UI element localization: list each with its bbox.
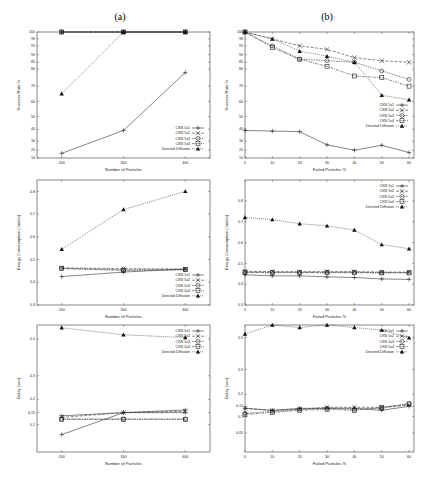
legend-label: CKN 5x1 (176, 126, 190, 130)
series-4 (60, 326, 188, 340)
y-axis-label: Energy Consumption (Joules) (16, 214, 21, 270)
y-tick-label: 95 (239, 44, 243, 48)
legend: CKN 5x1CKN 5x2CKN 5x3CKN 5x4Directed Dif… (366, 184, 408, 209)
x-tick-label: 60 (407, 161, 411, 165)
legend-label: CKN 5x4 (380, 345, 394, 349)
x-axis-label: Failed Particles % (313, 167, 347, 172)
chart-success-rate-vs-particles: 200300400102030405060708085909598100Numb… (16, 30, 210, 172)
y-tick-label: 0.1 (238, 415, 243, 419)
x-axis-label: Number of Particles (105, 167, 142, 172)
y-tick-label: 50 (239, 115, 243, 119)
legend-label: CKN 5x3 (176, 137, 190, 141)
x-tick-label: 50 (380, 455, 384, 459)
series-4 (60, 189, 188, 251)
x-tick-label: 200 (59, 455, 65, 459)
column-title-b: (b) (321, 11, 333, 23)
x-tick-label: 50 (380, 308, 384, 312)
legend: CKN 5x1CKN 5x2CKN 5x3CKN 5x4Directed Dif… (162, 273, 204, 298)
series-4 (243, 215, 411, 250)
x-tick-label: 0 (244, 161, 246, 165)
y-tick-label: 100 (29, 30, 35, 34)
y-tick-label: 0.6 (238, 241, 243, 245)
y-tick-label: 90 (239, 53, 243, 57)
y-tick-label: 0.8 (30, 190, 35, 194)
x-tick-label: 200 (59, 308, 65, 312)
y-tick-label: 20 (239, 148, 243, 152)
y-tick-label: 85 (239, 60, 243, 64)
y-tick-label: 70 (31, 84, 35, 88)
y-tick-label: 0.7 (238, 220, 243, 224)
y-tick-label: 98 (239, 37, 243, 41)
y-tick-label: 10 (239, 156, 243, 160)
chart-delay-vs-failed: 01020304050600.050.10.150.20.30.5Failed … (224, 323, 414, 466)
legend-label: CKN 5x3 (380, 340, 394, 344)
y-axis-label: Delay (sec) (16, 377, 21, 399)
y-tick-label: 0.3 (30, 303, 35, 307)
y-tick-label: 20 (31, 148, 35, 152)
y-tick-label: 0.15 (28, 411, 35, 415)
legend-label: CKN 5x2 (380, 189, 394, 193)
chart-energy-vs-failed: 01020304050600.30.40.50.60.70.8Failed Pa… (224, 180, 414, 319)
y-tick-label: 70 (239, 84, 243, 88)
legend-label: CKN 5x3 (176, 340, 190, 344)
y-tick-label: 80 (239, 67, 243, 71)
y-tick-label: 0.3 (238, 303, 243, 307)
y-tick-label: 0.7 (30, 212, 35, 216)
legend: CKN 5x1CKN 5x2CKN 5x3CKN 5x4Directed Dif… (162, 329, 204, 354)
y-tick-label: 0.3 (30, 374, 35, 378)
x-tick-label: 60 (407, 308, 411, 312)
legend-label: CKN 5x2 (176, 334, 190, 338)
y-tick-label: 0.5 (30, 258, 35, 262)
x-tick-label: 40 (352, 308, 356, 312)
y-tick-label: 0.1 (30, 423, 35, 427)
x-tick-label: 0 (244, 455, 246, 459)
series-0 (243, 273, 411, 282)
legend-label: Directed Diffusion (366, 350, 394, 354)
figure: (a) (b) 20030040010203040506070808590959… (0, 0, 431, 481)
y-tick-label: 0.8 (238, 199, 243, 203)
y-tick-label: 0.15 (236, 404, 243, 408)
x-tick-label: 400 (182, 161, 188, 165)
y-tick-label: 0.5 (30, 337, 35, 341)
legend-label: CKN 5x1 (176, 329, 190, 333)
y-tick-label: 0.4 (30, 280, 35, 284)
legend: CKN 5x1CKN 5x2CKN 5x3CKN 5x4Directed Dif… (366, 329, 408, 354)
legend-label: CKN 5x1 (380, 329, 394, 333)
y-tick-label: 50 (31, 115, 35, 119)
x-tick-label: 40 (352, 455, 356, 459)
y-axis-label: Energy Consumption (Joules) (224, 214, 229, 270)
y-tick-label: 0.05 (236, 431, 243, 435)
x-tick-label: 200 (59, 161, 65, 165)
x-tick-label: 400 (182, 455, 188, 459)
x-tick-label: 40 (352, 161, 356, 165)
legend-label: CKN 5x4 (380, 119, 394, 123)
legend-label: CKN 5x2 (380, 334, 394, 338)
y-tick-label: 90 (31, 53, 35, 57)
legend-label: CKN 5x1 (380, 103, 394, 107)
x-tick-label: 30 (325, 455, 329, 459)
y-tick-label: 0.2 (238, 392, 243, 396)
legend-label: CKN 5x2 (176, 131, 190, 135)
y-tick-label: 0.2 (30, 397, 35, 401)
x-tick-label: 300 (121, 308, 127, 312)
series-4 (60, 30, 188, 96)
series-5 (60, 70, 188, 155)
legend-label: CKN 5x4 (176, 345, 190, 349)
x-axis-label: Number of Particles (105, 461, 142, 466)
legend-label: CKN 5x4 (176, 142, 190, 146)
x-tick-label: 300 (121, 161, 127, 165)
legend-label: Directed Diffusion (162, 350, 190, 354)
legend-label: Directed Diffusion (162, 147, 190, 151)
y-tick-label: 0.5 (238, 262, 243, 266)
y-tick-label: 0.5 (238, 336, 243, 340)
y-tick-label: 30 (239, 139, 243, 143)
y-tick-label: 98 (31, 37, 35, 41)
legend: CKN 5x1CKN 5x2CKN 5x3CKN 5x4Directed Dif… (366, 103, 408, 128)
x-tick-label: 20 (298, 455, 302, 459)
chart-energy-vs-particles: 2003004000.30.40.50.60.70.8Number of Par… (16, 180, 210, 319)
y-axis-label: Success Rate % (224, 79, 229, 110)
x-tick-label: 300 (121, 455, 127, 459)
y-tick-label: 40 (31, 127, 35, 131)
series-3 (243, 30, 411, 88)
legend-label: CKN 5x3 (380, 114, 394, 118)
